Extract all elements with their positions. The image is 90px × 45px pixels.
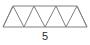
figure-container: 5 bbox=[0, 0, 90, 45]
trapezoid-outline bbox=[3, 6, 87, 27]
truss-zigzag-web bbox=[3, 6, 87, 27]
figure-number-label: 5 bbox=[0, 30, 90, 43]
truss-diagram bbox=[0, 0, 90, 32]
